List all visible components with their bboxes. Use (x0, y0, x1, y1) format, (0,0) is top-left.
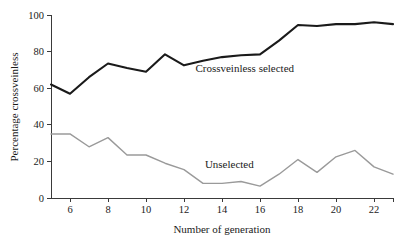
annotation-unselected: Unselected (205, 158, 254, 170)
x-tick-label-12: 12 (179, 204, 190, 215)
y-axis-tick-labels: 020406080100 (28, 10, 44, 204)
x-axis-title: Number of generation (173, 223, 271, 235)
y-tick-label-60: 60 (34, 83, 45, 94)
series-annotations-layer: Crossveinless selectedUnselected (195, 62, 294, 170)
line-chart-canvas: 020406080100 6810121416182022 Crossveinl… (0, 0, 409, 240)
y-axis-title: Percentage crossveinless (8, 52, 20, 161)
x-tick-label-22: 22 (369, 204, 380, 215)
y-tick-label-20: 20 (34, 156, 45, 167)
x-tick-label-8: 8 (105, 204, 110, 215)
x-tick-label-16: 16 (255, 204, 266, 215)
y-tick-label-40: 40 (34, 119, 45, 130)
x-tick-label-20: 20 (331, 204, 342, 215)
x-tick-label-18: 18 (293, 204, 304, 215)
y-tick-label-80: 80 (34, 46, 45, 57)
x-tick-label-10: 10 (141, 204, 152, 215)
x-axis-ticks (70, 198, 393, 202)
y-tick-label-100: 100 (28, 10, 44, 21)
x-tick-label-6: 6 (67, 204, 72, 215)
y-axis-ticks (47, 15, 51, 198)
annotation-crossveinless-selected: Crossveinless selected (195, 62, 294, 74)
chart-figure: 020406080100 6810121416182022 Crossveinl… (0, 0, 409, 240)
x-axis-tick-labels: 6810121416182022 (67, 204, 379, 215)
x-tick-label-14: 14 (217, 204, 228, 215)
axes-group (47, 15, 393, 202)
y-tick-label-0: 0 (39, 193, 44, 204)
series-line-crossveinless-selected (51, 22, 393, 93)
